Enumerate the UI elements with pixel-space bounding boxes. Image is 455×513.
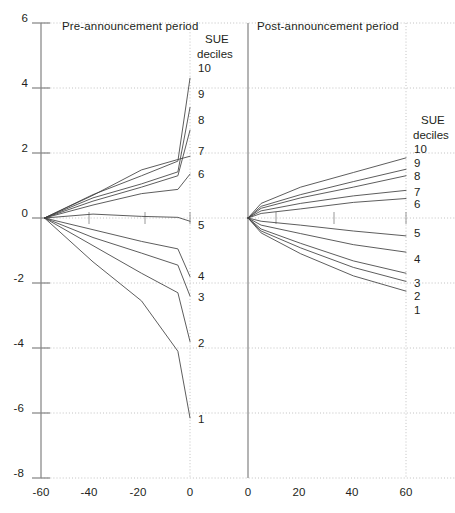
series-line-decile-8 [248, 176, 406, 218]
legend-title-left-line1: SUE [205, 33, 229, 45]
legend-title-right-line1: SUE [421, 114, 445, 126]
y-tick-label-0: 0 [6, 207, 28, 219]
series-line-decile-8 [45, 130, 191, 218]
x-tick-label-right-40: 40 [335, 486, 369, 498]
legend-item-left-9: 9 [198, 88, 222, 100]
legend-item-right-9: 9 [414, 157, 438, 169]
series-line-decile-2 [45, 218, 191, 342]
series-line-decile-7 [248, 190, 406, 218]
legend-item-right-1: 1 [414, 304, 438, 316]
legend-item-left-10: 10 [198, 62, 222, 74]
series-line-decile-6 [248, 199, 406, 219]
legend-item-right-8: 8 [414, 170, 438, 182]
series-line-decile-9 [248, 169, 406, 218]
y-tick-label-6: 6 [6, 12, 28, 24]
legend-title-left-line2: deciles [197, 48, 233, 60]
y-tick-label-neg2: -2 [2, 272, 24, 284]
series-group-post [248, 158, 406, 291]
x-tick-label-right-0: 0 [231, 486, 265, 498]
y-tick-label-2: 2 [6, 142, 28, 154]
legend-item-left-7: 7 [198, 145, 222, 157]
legend-item-right-2: 2 [414, 290, 438, 302]
y-tick-label-neg6: -6 [2, 402, 24, 414]
x-tick-label-left-neg20: -20 [121, 486, 155, 498]
chart-canvas [0, 0, 455, 513]
x-tick-label-right-60: 60 [389, 486, 423, 498]
legend-item-left-2: 2 [198, 337, 222, 349]
x-tick-label-left-0: 0 [173, 486, 207, 498]
series-line-decile-9 [45, 108, 191, 219]
legend-item-left-6: 6 [198, 168, 222, 180]
series-group-pre [45, 78, 191, 418]
x-tick-label-left-neg60: -60 [24, 486, 58, 498]
legend-item-left-4: 4 [198, 270, 222, 282]
legend-item-right-4: 4 [414, 253, 438, 265]
chart-figure: 6 4 2 0 -2 -4 -6 -8 -60 -40 -20 0 0 20 4… [0, 0, 455, 513]
legend-item-right-3: 3 [414, 277, 438, 289]
x-tick-label-left-neg40: -40 [72, 486, 106, 498]
panel-title-pre-announcement: Pre-announcement period [62, 20, 198, 32]
y-tick-label-neg8: -8 [2, 467, 24, 479]
series-line-decile-3 [45, 218, 191, 296]
series-line-decile-6 [45, 174, 191, 218]
legend-item-left-8: 8 [198, 114, 222, 126]
legend-item-right-10: 10 [414, 143, 438, 155]
series-line-decile-1 [45, 218, 191, 418]
legend-item-right-5: 5 [414, 227, 438, 239]
y-tick-label-4: 4 [6, 77, 28, 89]
panel-title-post-announcement: Post-announcement period [257, 20, 399, 32]
legend-item-left-1: 1 [198, 413, 222, 425]
series-line-decile-1 [248, 218, 406, 291]
legend-item-right-6: 6 [414, 198, 438, 210]
legend-item-left-5: 5 [198, 219, 222, 231]
x-tick-label-right-20: 20 [282, 486, 316, 498]
series-line-decile-10 [45, 78, 191, 218]
legend-item-right-7: 7 [414, 186, 438, 198]
y-tick-label-neg4: -4 [2, 337, 24, 349]
legend-item-left-3: 3 [198, 291, 222, 303]
legend-title-right-line2: deciles [413, 129, 449, 141]
